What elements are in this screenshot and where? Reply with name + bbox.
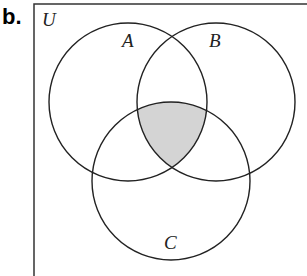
universe-label: U xyxy=(42,9,57,30)
set-a-label: A xyxy=(120,30,134,51)
venn-diagram: U A B C xyxy=(0,0,307,276)
set-c-label: C xyxy=(164,232,177,253)
set-b-label: B xyxy=(209,30,221,51)
